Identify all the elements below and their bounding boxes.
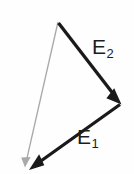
vector-label-e1-base: E (77, 125, 91, 148)
vector-label-e2: E2 (92, 36, 114, 60)
vector-label-e2-base: E (92, 35, 106, 58)
vector-label-e2-subscript: 2 (107, 46, 114, 61)
vector-resultant-arrowhead (21, 157, 30, 167)
vector-e1-arrowhead (29, 154, 44, 170)
vector-e2-arrowhead (106, 88, 121, 104)
vector-resultant-shaft (27, 22, 58, 160)
vector-addition-diagram: ....... E2 E1 (0, 0, 134, 174)
vector-label-e1: E1 (77, 126, 99, 150)
vector-resultant (21, 22, 58, 168)
vector-e1 (29, 105, 120, 171)
vector-label-e1-subscript: 1 (92, 136, 99, 151)
vector-diagram-canvas (0, 0, 134, 174)
